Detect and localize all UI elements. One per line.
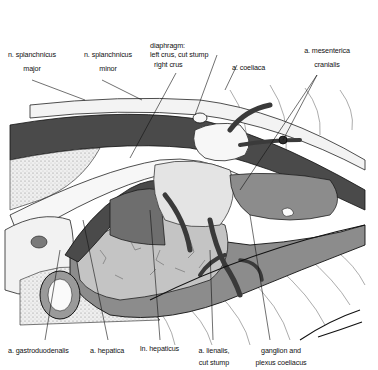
duodenum-lumen [48, 279, 72, 311]
label-hepatica: a. hepatica [90, 346, 124, 355]
duct-opening [31, 236, 47, 248]
label-splanchnicus-major: n. splanchnicus major [2, 50, 62, 73]
coeliac-lymph-mass [194, 123, 249, 161]
label-splanchnicus-minor: n. splanchnicus minor [78, 50, 138, 73]
label-lienalis: a. lienalis, cut stump [193, 346, 235, 367]
label-mesenterica: a. mesenterica cranialis [292, 46, 362, 69]
label-gastroduodenalis: a. gastroduodenalis [8, 346, 69, 355]
label-ln-hepaticus: ln. hepaticus [140, 344, 179, 353]
label-diaphragm: diaphragm: left crus, cut stump right cr… [150, 41, 208, 69]
label-coeliaca: a. coeliaca [232, 63, 265, 72]
label-ganglion: ganglion and plexus coeliacus [248, 346, 314, 367]
anatomical-illustration: n. splanchnicus major n. splanchnicus mi… [0, 0, 378, 370]
